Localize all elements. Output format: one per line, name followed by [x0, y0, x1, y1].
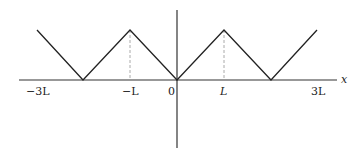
x-axis-label: x: [341, 73, 348, 86]
triangle-wave-diagram: x −3L −L 0 L 3L: [0, 0, 364, 157]
tick-label-neg-L: −L: [122, 85, 139, 98]
tick-label-L: L: [219, 85, 227, 98]
tick-label-0: 0: [168, 85, 175, 98]
tick-label-3L: 3L: [311, 85, 326, 98]
tick-label-neg-3L: −3L: [26, 85, 50, 98]
